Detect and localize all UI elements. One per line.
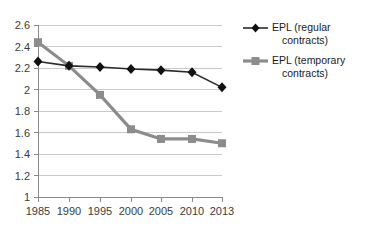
chart-legend: EPL (regular contracts) EPL (temporary c… — [243, 21, 346, 79]
data-point-regular — [218, 82, 227, 92]
y-tick-marks — [34, 25, 38, 197]
data-point-temporary — [188, 135, 196, 143]
x-tick-label: 1990 — [57, 205, 81, 217]
legend-marker-square-icon — [252, 57, 260, 65]
x-tick-label: 1995 — [88, 205, 112, 217]
y-tick-label: 1.4 — [15, 148, 30, 160]
data-point-temporary — [127, 125, 135, 133]
x-tick-label: 2010 — [180, 205, 204, 217]
x-tick-label: 2013 — [210, 205, 234, 217]
legend-label-temporary-line1: EPL (temporary — [272, 54, 346, 66]
y-tick-label: 2.2 — [15, 62, 30, 74]
y-tick-label: 2 — [24, 84, 30, 96]
x-axis-labels: 1985 1990 1995 2000 2005 2010 2013 — [26, 205, 234, 217]
line-chart: 2.6 2.4 2.2 2 1.8 1.6 1.4 1.2 1 1985 199… — [0, 0, 385, 241]
x-tick-label: 2000 — [119, 205, 143, 217]
y-tick-label: 1 — [24, 191, 30, 203]
x-tick-marks — [38, 197, 222, 202]
y-tick-label: 2.4 — [15, 41, 30, 53]
data-point-temporary — [96, 91, 104, 99]
data-series-layer — [34, 38, 227, 147]
legend-label-regular-line1: EPL (regular — [272, 21, 331, 33]
y-tick-label: 1.8 — [15, 105, 30, 117]
data-point-regular — [127, 64, 136, 74]
data-point-regular — [34, 57, 43, 67]
legend-label-temporary-line2: contracts) — [282, 67, 328, 79]
gridlines — [38, 25, 222, 176]
data-point-regular — [96, 62, 105, 72]
legend-marker-diamond-icon — [252, 24, 260, 33]
y-tick-label: 1.2 — [15, 170, 30, 182]
legend-label-regular-line2: contracts) — [282, 34, 328, 46]
data-point-regular — [188, 67, 197, 77]
data-point-temporary — [34, 38, 42, 46]
x-tick-label: 2005 — [149, 205, 173, 217]
data-point-regular — [157, 65, 166, 75]
y-tick-label: 2.6 — [15, 19, 30, 31]
x-tick-label: 1985 — [26, 205, 50, 217]
data-point-temporary — [157, 135, 165, 143]
y-axis-labels: 2.6 2.4 2.2 2 1.8 1.6 1.4 1.2 1 — [15, 19, 30, 203]
chart-container: 2.6 2.4 2.2 2 1.8 1.6 1.4 1.2 1 1985 199… — [0, 0, 385, 241]
y-tick-label: 1.6 — [15, 127, 30, 139]
data-point-temporary — [218, 139, 226, 147]
